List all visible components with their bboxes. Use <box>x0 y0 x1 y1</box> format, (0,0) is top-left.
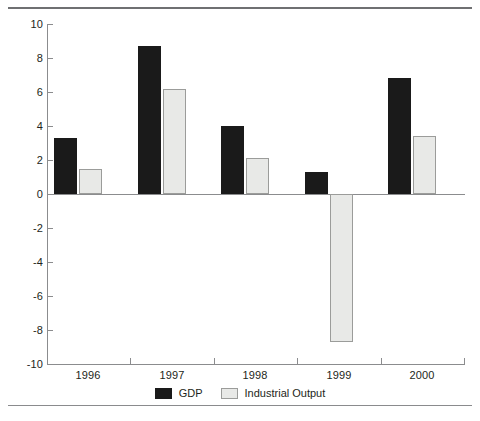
x-tick-mark <box>47 358 48 364</box>
y-tick-label: 4 <box>3 121 43 132</box>
bar-1997-gdp <box>138 46 161 194</box>
y-tick-label: 8 <box>3 53 43 64</box>
y-tick-mark <box>47 58 53 59</box>
x-tick-mark <box>381 358 382 364</box>
y-tick-mark <box>47 262 53 263</box>
plot-area: 10 8 6 4 2 0 -2 -4 -6 -8 -10 1996 1997 1… <box>0 0 480 380</box>
bottom-divider-rule <box>8 405 472 406</box>
legend-entry-gdp: GDP <box>155 387 203 399</box>
bar-2000-industrial-output <box>413 136 436 194</box>
chart-legend: GDP Industrial Output <box>0 387 480 399</box>
bar-2000-gdp <box>388 78 411 194</box>
x-axis-label-1997: 1997 <box>137 369 207 381</box>
bar-1999-industrial-output <box>330 194 353 342</box>
y-tick-label: 2 <box>3 155 43 166</box>
x-tick-mark <box>214 358 215 364</box>
y-tick-label: -4 <box>3 257 43 268</box>
y-tick-label: -8 <box>3 325 43 336</box>
y-tick-label: 6 <box>3 87 43 98</box>
y-tick-mark <box>47 24 53 25</box>
y-tick-mark <box>47 92 53 93</box>
x-tick-mark <box>130 358 131 364</box>
zero-baseline <box>47 194 465 195</box>
y-tick-mark <box>47 126 53 127</box>
y-tick-label: -6 <box>3 291 43 302</box>
bar-1996-industrial-output <box>79 169 102 195</box>
bar-1997-industrial-output <box>163 89 186 194</box>
chart-figure: 10 8 6 4 2 0 -2 -4 -6 -8 -10 1996 1997 1… <box>0 0 480 421</box>
x-axis-label-1996: 1996 <box>53 369 123 381</box>
y-tick-label: -10 <box>3 359 43 370</box>
bar-1996-gdp <box>54 138 77 194</box>
bar-1999-gdp <box>305 172 328 194</box>
bar-1998-industrial-output <box>246 158 269 194</box>
legend-swatch-industrial-output <box>221 388 238 399</box>
y-tick-label: 10 <box>3 19 43 30</box>
x-axis-line <box>47 364 465 365</box>
legend-entry-industrial-output: Industrial Output <box>221 387 326 399</box>
bar-1998-gdp <box>221 126 244 194</box>
x-tick-mark <box>464 358 465 364</box>
x-axis-label-1998: 1998 <box>220 369 290 381</box>
x-tick-mark <box>297 358 298 364</box>
y-tick-label: -2 <box>3 223 43 234</box>
x-axis-label-1999: 1999 <box>304 369 374 381</box>
legend-label-gdp: GDP <box>179 387 203 399</box>
y-tick-mark <box>47 330 53 331</box>
y-tick-mark <box>47 160 53 161</box>
x-axis-label-2000: 2000 <box>387 369 457 381</box>
y-tick-mark <box>47 228 53 229</box>
legend-label-industrial-output: Industrial Output <box>245 387 326 399</box>
legend-swatch-gdp <box>155 388 172 399</box>
y-tick-mark <box>47 296 53 297</box>
y-tick-label: 0 <box>3 189 43 200</box>
